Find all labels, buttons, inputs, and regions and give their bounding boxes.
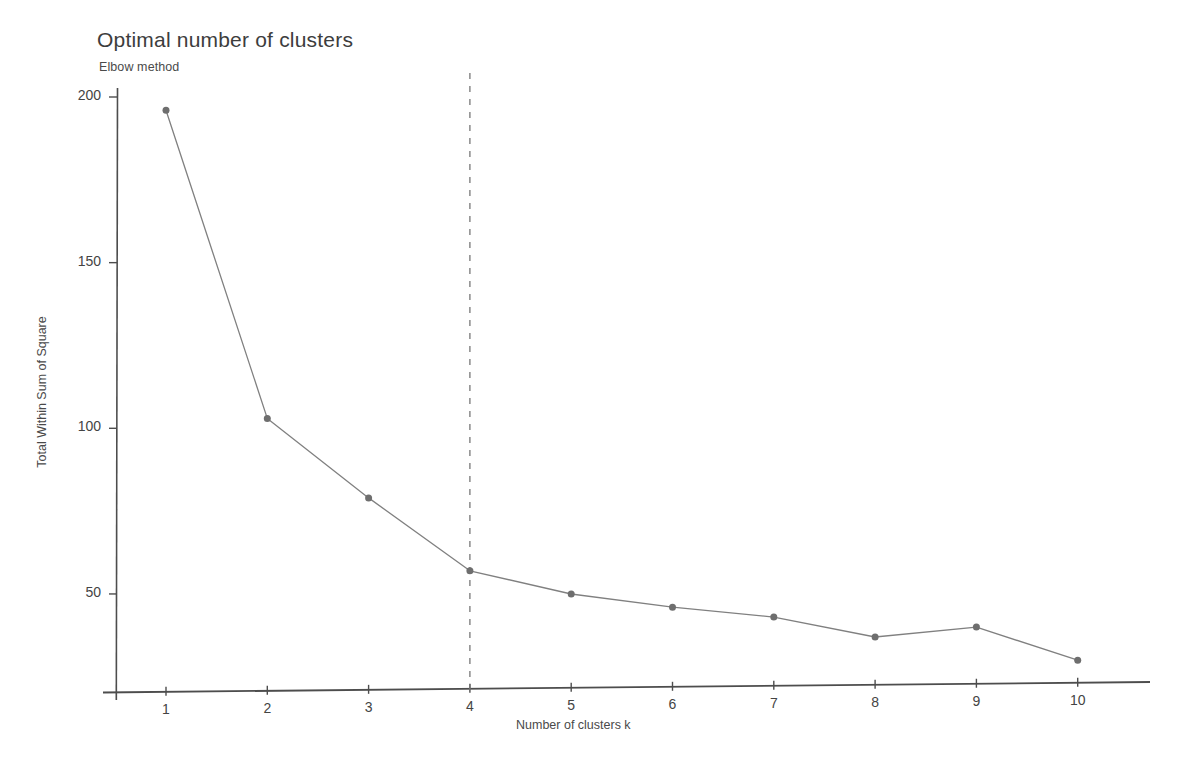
x-tick-label: 8 [850, 694, 900, 710]
y-tick-label: 100 [45, 418, 101, 434]
data-point [973, 624, 980, 631]
data-point [163, 107, 170, 114]
y-tick-label: 50 [45, 584, 101, 600]
x-axis-line [103, 682, 1150, 693]
x-tick-label: 3 [344, 699, 394, 715]
data-point [1074, 657, 1081, 664]
x-tick-label: 7 [749, 695, 799, 711]
series-line [166, 110, 1078, 660]
data-point [264, 415, 271, 422]
data-point [872, 634, 879, 641]
data-point [466, 567, 473, 574]
y-tick-label: 150 [45, 253, 101, 269]
data-point-markers [163, 107, 1082, 664]
y-axis-line [116, 88, 117, 700]
x-tick-label: 10 [1053, 692, 1103, 708]
x-tick-label: 1 [141, 701, 191, 717]
elbow-method-chart: Optimal number of clusters Elbow method … [0, 0, 1191, 771]
x-tick-label: 6 [648, 696, 698, 712]
plot-area [0, 0, 1191, 771]
data-point [568, 591, 575, 598]
y-axis-ticks [109, 97, 117, 594]
data-point [669, 604, 676, 611]
data-point [770, 614, 777, 621]
x-tick-label: 4 [445, 698, 495, 714]
x-tick-label: 2 [242, 700, 292, 716]
x-tick-label: 9 [951, 693, 1001, 709]
data-point [365, 494, 372, 501]
y-tick-label: 200 [45, 87, 101, 103]
x-tick-label: 5 [546, 697, 596, 713]
